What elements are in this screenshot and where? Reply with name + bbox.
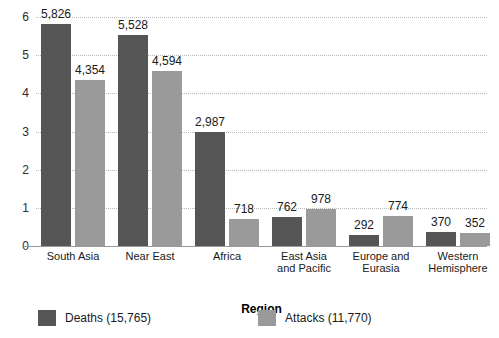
bar-chart: 6 5 4 3 2 1 0 5,826 4,354 South Asia 5,5… (0, 0, 499, 338)
bar-deaths-south-asia: 5,826 (41, 24, 71, 247)
y-tick-label-5: 5 (22, 48, 29, 62)
bar-value-label: 978 (311, 192, 331, 206)
legend-label-deaths: Deaths (15,765) (65, 311, 151, 325)
legend-item-attacks[interactable]: Attacks (11,770) (258, 310, 371, 326)
bar-attacks-western-hemisphere: 352 (460, 233, 490, 246)
plot-area: 6 5 4 3 2 1 0 5,826 4,354 South Asia 5,5… (36, 17, 487, 246)
bar-value-label: 352 (465, 216, 485, 230)
bar-value-label: 292 (354, 218, 374, 232)
y-tick-label-1: 1 (22, 201, 29, 215)
x-axis-line (22, 246, 487, 247)
bar-deaths-africa: 2,987 (195, 132, 225, 246)
bar-attacks-europe-and-eurasia: 774 (383, 216, 413, 246)
gridline-6 (36, 17, 487, 18)
bar-attacks-near-east: 4,594 (152, 71, 182, 247)
y-tick-label-6: 6 (22, 10, 29, 24)
bar-value-label: 5,528 (118, 18, 148, 32)
bar-value-label: 4,594 (152, 54, 182, 68)
bar-value-label: 370 (431, 215, 451, 229)
bar-attacks-south-asia: 4,354 (75, 80, 105, 246)
bar-deaths-east-asia-and-pacific: 762 (272, 217, 302, 246)
bar-deaths-western-hemisphere: 370 (426, 232, 456, 246)
x-category-label-western-hemisphere: Western Hemisphere (412, 250, 499, 274)
legend-item-deaths[interactable]: Deaths (15,765) (38, 310, 151, 326)
bar-value-label: 2,987 (195, 115, 225, 129)
chart-legend: Deaths (15,765) Attacks (11,770) (38, 310, 372, 326)
legend-swatch-deaths-icon (38, 310, 56, 326)
y-tick-label-3: 3 (22, 125, 29, 139)
bar-attacks-africa: 718 (229, 219, 259, 246)
legend-swatch-attacks-icon (258, 310, 276, 326)
bar-deaths-near-east: 5,528 (118, 35, 148, 246)
bar-value-label: 5,826 (41, 7, 71, 21)
bar-value-label: 774 (388, 199, 408, 213)
legend-label-attacks: Attacks (11,770) (285, 311, 371, 325)
bar-value-label: 718 (234, 202, 254, 216)
bar-attacks-east-asia-and-pacific: 978 (306, 209, 336, 246)
y-tick-label-2: 2 (22, 163, 29, 177)
y-tick-label-4: 4 (22, 86, 29, 100)
bar-value-label: 762 (277, 200, 297, 214)
bar-deaths-europe-and-eurasia: 292 (349, 235, 379, 246)
bar-value-label: 4,354 (75, 63, 105, 77)
gridline-5 (36, 55, 487, 56)
